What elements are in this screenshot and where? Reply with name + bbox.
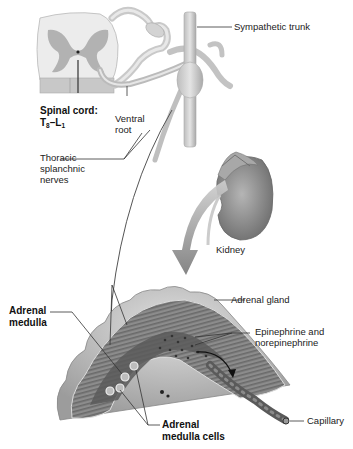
label-adrenal-cells-line2: medulla cells: [162, 431, 225, 442]
label-spinal-cord: Spinal cord: T8–L1: [40, 105, 98, 131]
label-spinal-cord-line1: Spinal cord:: [40, 105, 98, 116]
nerve-roots: [100, 10, 230, 160]
sympathetic-trunk: [177, 12, 203, 147]
label-thoracic-line3: nerves: [40, 174, 69, 185]
label-epinephrine-line2: norepinephrine: [255, 337, 318, 348]
zoom-arrow: [172, 180, 228, 275]
label-capillary: Capillary: [307, 415, 344, 426]
label-adrenal-cells-line1: Adrenal: [162, 419, 199, 430]
label-ventral-root-line2: root: [115, 124, 131, 135]
label-adrenal-medulla: Adrenal medulla: [9, 305, 47, 328]
label-thoracic-line2: splanchnic: [40, 163, 85, 174]
label-thoracic-splanchnic-nerves: Thoracic splanchnic nerves: [40, 152, 85, 185]
label-ventral-root-line1: Ventral: [115, 113, 145, 124]
adrenal-innervation-diagram: [0, 0, 353, 449]
label-spinal-cord-sub-1: 1: [61, 122, 65, 129]
label-kidney: Kidney: [216, 244, 245, 255]
label-thoracic-line1: Thoracic: [40, 152, 76, 163]
label-epinephrine-norepinephrine: Epinephrine and norepinephrine: [255, 326, 324, 348]
label-sympathetic-trunk: Sympathetic trunk: [234, 21, 310, 32]
label-epinephrine-line1: Epinephrine and: [255, 326, 324, 337]
label-adrenal-medulla-cells: Adrenal medulla cells: [162, 419, 225, 442]
label-adrenal-medulla-line1: Adrenal: [9, 305, 46, 316]
label-adrenal-gland: Adrenal gland: [231, 294, 290, 305]
label-adrenal-medulla-line2: medulla: [9, 317, 47, 328]
label-ventral-root: Ventral root: [115, 113, 145, 135]
kidney: [208, 152, 273, 245]
adrenal-gland: [57, 286, 290, 424]
label-spinal-cord-segment-l: –L: [50, 117, 62, 128]
